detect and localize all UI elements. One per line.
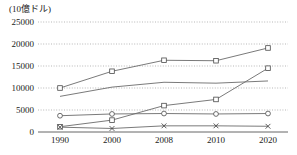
series-line-series-3 [60, 68, 268, 127]
data-point-marker [266, 111, 271, 116]
y-axis-tick-label: 20000 [12, 39, 35, 49]
x-axis-tick-label: 2020 [259, 135, 278, 145]
data-point-marker [266, 46, 271, 51]
data-point-marker [266, 66, 271, 71]
x-axis-tick-labels: 19902000200820102020 [51, 135, 278, 145]
data-point-marker [58, 86, 63, 91]
x-axis-tick-label: 2000 [103, 135, 122, 145]
data-point-marker [214, 112, 219, 117]
data-point-marker [162, 58, 167, 63]
y-axis-tick-label: 25000 [12, 17, 35, 27]
y-axis-tick-label: 15000 [12, 61, 35, 71]
data-point-marker [58, 113, 63, 118]
x-axis-tick-label: 1990 [51, 135, 70, 145]
data-point-marker [162, 111, 167, 116]
y-axis-tick-label: 0 [30, 127, 35, 137]
x-axis-tick-label: 2008 [155, 135, 174, 145]
series-line-series-2 [60, 81, 268, 96]
data-point-marker [110, 118, 115, 123]
data-point-marker [162, 103, 167, 108]
data-point-marker [110, 112, 115, 117]
legend-strip-cropped [0, 147, 297, 155]
data-point-marker [214, 58, 219, 63]
x-axis-tick-label: 2010 [207, 135, 226, 145]
line-chart-plot: 0500010000150002000025000 19902000200820… [0, 0, 297, 155]
data-point-marker [214, 97, 219, 102]
data-point-marker [110, 69, 115, 74]
y-axis-tick-label: 5000 [16, 105, 35, 115]
chart-container: (10億ドル) 0500010000150002000025000 199020… [0, 0, 297, 155]
y-axis-tick-labels: 0500010000150002000025000 [12, 17, 35, 137]
gridlines [38, 22, 288, 110]
y-axis-tick-label: 10000 [12, 83, 35, 93]
